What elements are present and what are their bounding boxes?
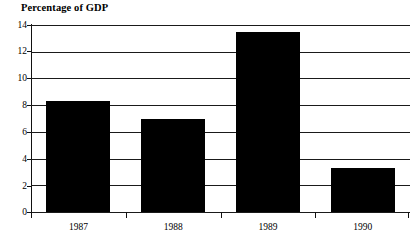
x-tick-mark-end [408, 212, 409, 218]
x-tick-label-1990: 1990 [315, 222, 410, 233]
bar-1990[interactable] [331, 168, 395, 212]
chart-title: Percentage of GDP [21, 2, 108, 14]
x-tick-mark-3 [315, 212, 316, 218]
bar-1988[interactable] [141, 119, 205, 212]
x-tick-label-1988: 1988 [126, 222, 221, 233]
bar-1989[interactable] [236, 32, 300, 212]
y-tick-label-12: 12 [3, 46, 27, 56]
x-tick-label-1987: 1987 [31, 222, 126, 233]
x-axis-tick-marks [31, 212, 410, 220]
y-tick-label-14: 14 [3, 20, 27, 30]
x-tick-mark-1 [126, 212, 127, 218]
y-tick-label-8: 8 [3, 100, 27, 110]
y-tick-label-4: 4 [3, 154, 27, 164]
x-tick-mark-2 [221, 212, 222, 218]
y-axis-tick-labels: 14 12 10 8 6 4 2 0 [0, 0, 27, 246]
plot-area [31, 25, 410, 212]
bar-1987[interactable] [46, 101, 110, 212]
gridline-14 [31, 25, 410, 26]
x-tick-mark-start [31, 212, 32, 218]
bar-chart-figure: Percentage of GDP 14 12 10 8 6 4 2 0 [0, 0, 418, 246]
y-tick-label-6: 6 [3, 127, 27, 137]
gridline-12 [31, 52, 410, 53]
x-axis-tick-labels: 1987 1988 1989 1990 [31, 222, 410, 238]
x-tick-label-1989: 1989 [221, 222, 316, 233]
y-tick-label-0: 0 [3, 207, 27, 217]
y-tick-label-10: 10 [3, 73, 27, 83]
gridline-10 [31, 78, 410, 79]
y-tick-label-2: 2 [3, 181, 27, 191]
